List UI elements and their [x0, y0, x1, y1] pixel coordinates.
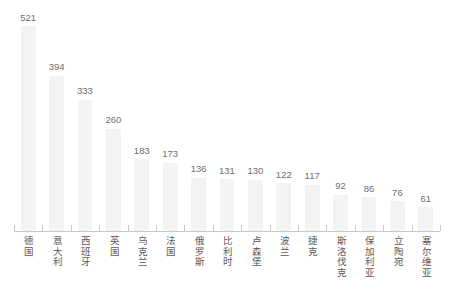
bar-rect — [362, 197, 377, 231]
axis-tick — [326, 225, 327, 231]
bar-value-label: 183 — [134, 146, 150, 156]
bar-value-label: 117 — [305, 171, 320, 181]
category-label-text: 乌克兰 — [137, 236, 148, 268]
category-label-捷克: 捷克 — [298, 236, 326, 261]
bar-rect — [134, 159, 149, 231]
category-label-text: 法国 — [165, 236, 176, 257]
bar-rect — [106, 129, 121, 231]
bar-value-label: 333 — [77, 86, 93, 96]
bar-比利时[interactable]: 131 — [220, 8, 235, 231]
bar-value-label: 61 — [420, 194, 431, 204]
axis-tick — [355, 225, 356, 231]
category-label-波兰: 波兰 — [270, 236, 298, 261]
axis-tick — [156, 225, 157, 231]
bar-俄罗斯[interactable]: 136 — [191, 8, 206, 231]
axis-tick — [213, 225, 214, 231]
bar-立陶宛[interactable]: 76 — [390, 8, 405, 231]
bar-value-label: 76 — [392, 188, 403, 198]
bar-value-label: 521 — [20, 13, 36, 23]
bar-value-label: 173 — [162, 149, 178, 159]
bar-value-label: 260 — [105, 115, 121, 125]
category-label-意大利: 意大利 — [42, 236, 70, 272]
category-label-text: 意大利 — [51, 236, 62, 268]
bar-捷克[interactable]: 117 — [305, 8, 320, 231]
axis-tick — [99, 225, 100, 231]
bar-chart: 5213943332601831731361311301221179286766… — [0, 0, 451, 299]
bar-保加利亚[interactable]: 86 — [362, 8, 377, 231]
bar-乌克兰[interactable]: 183 — [134, 8, 149, 231]
bar-斯洛伐克[interactable]: 92 — [333, 8, 348, 231]
bar-rect — [333, 195, 348, 231]
bar-德国[interactable]: 521 — [21, 8, 36, 231]
bar-塞尔维亚[interactable]: 61 — [418, 8, 433, 231]
axis-tick — [241, 225, 242, 231]
category-label-text: 波兰 — [279, 236, 290, 257]
bar-波兰[interactable]: 122 — [276, 8, 291, 231]
category-label-塞尔维亚: 塞尔维亚 — [412, 236, 440, 282]
bar-value-label: 130 — [247, 166, 263, 176]
category-label-俄罗斯: 俄罗斯 — [184, 236, 212, 272]
category-label-法国: 法国 — [156, 236, 184, 261]
category-label-text: 保加利亚 — [364, 236, 375, 278]
bar-西班牙[interactable]: 333 — [78, 8, 93, 231]
bar-rect — [305, 185, 320, 231]
bar-rect — [248, 180, 263, 231]
category-label-保加利亚: 保加利亚 — [355, 236, 383, 282]
category-label-比利时: 比利时 — [213, 236, 241, 272]
category-label-西班牙: 西班牙 — [71, 236, 99, 272]
bar-rect — [49, 76, 64, 231]
bar-rect — [418, 207, 433, 231]
plot-area: 5213943332601831731361311301221179286766… — [14, 8, 440, 231]
bar-法国[interactable]: 173 — [163, 8, 178, 231]
bar-英国[interactable]: 260 — [106, 8, 121, 231]
x-axis-line — [14, 231, 440, 232]
axis-tick — [298, 225, 299, 231]
category-label-text: 斯洛伐克 — [335, 236, 346, 278]
bar-value-label: 86 — [364, 184, 375, 194]
category-label-text: 捷克 — [307, 236, 318, 257]
bar-value-label: 92 — [335, 181, 346, 191]
category-label-text: 立陶宛 — [392, 236, 403, 268]
category-label-英国: 英国 — [99, 236, 127, 261]
bar-rect — [276, 183, 291, 231]
category-label-立陶宛: 立陶宛 — [383, 236, 411, 272]
bar-卢森堡[interactable]: 130 — [248, 8, 263, 231]
category-label-斯洛伐克: 斯洛伐克 — [326, 236, 354, 282]
bar-value-label: 136 — [191, 164, 207, 174]
category-label-德国: 德国 — [14, 236, 42, 261]
category-label-乌克兰: 乌克兰 — [128, 236, 156, 272]
category-label-group: 德国意大利西班牙英国乌克兰法国俄罗斯比利时卢森堡波兰捷克斯洛伐克保加利亚立陶宛塞… — [14, 236, 440, 296]
category-label-text: 西班牙 — [80, 236, 91, 268]
bar-rect — [78, 100, 93, 231]
category-label-text: 塞尔维亚 — [421, 236, 432, 278]
bar-rect — [163, 163, 178, 231]
axis-tick — [440, 225, 441, 231]
category-label-text: 俄罗斯 — [193, 236, 204, 268]
axis-tick — [270, 225, 271, 231]
axis-tick — [128, 225, 129, 231]
category-label-text: 英国 — [108, 236, 119, 257]
bar-意大利[interactable]: 394 — [49, 8, 64, 231]
bar-rect — [191, 178, 206, 232]
bar-value-label: 131 — [219, 166, 235, 176]
bar-value-label: 122 — [276, 170, 292, 180]
axis-tick — [184, 225, 185, 231]
axis-tick — [383, 225, 384, 231]
axis-tick — [71, 225, 72, 231]
category-label-text: 卢森堡 — [250, 236, 261, 268]
category-label-text: 德国 — [23, 236, 34, 257]
category-label-text: 比利时 — [222, 236, 233, 268]
axis-tick — [42, 225, 43, 231]
axis-tick — [412, 225, 413, 231]
category-label-卢森堡: 卢森堡 — [241, 236, 269, 272]
bar-rect — [21, 26, 36, 231]
bar-rect — [220, 179, 235, 231]
bar-rect — [390, 201, 405, 231]
axis-tick — [14, 225, 15, 231]
bar-value-label: 394 — [49, 62, 65, 72]
